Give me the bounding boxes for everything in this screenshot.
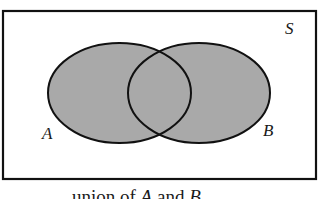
- venn-diagram: S A B union of A and B: [0, 0, 318, 199]
- caption-prefix: union of: [72, 186, 141, 199]
- caption-middle: and: [152, 186, 189, 199]
- caption-set-a: A: [139, 186, 153, 199]
- set-b-label: B: [263, 121, 274, 140]
- caption: union of A and B: [72, 186, 201, 199]
- set-a-label: A: [41, 124, 53, 143]
- universe-label: S: [285, 19, 294, 38]
- caption-set-b: B: [189, 186, 201, 199]
